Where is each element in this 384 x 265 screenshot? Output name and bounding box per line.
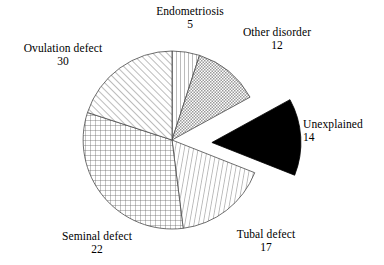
slice-label-seminal-defect-name: Seminal defect [42,230,152,243]
slice-label-unexplained: Unexplained 14 [303,118,384,144]
slice-label-other-disorder: Other disorder 12 [225,26,329,52]
slice-label-unexplained-value: 14 [303,131,384,144]
slice-label-other-disorder-name: Other disorder [225,26,329,39]
slice-label-ovulation-defect: Ovulation defect 30 [6,42,120,68]
pie-chart: Endometriosis 5 Other disorder 12 Unexpl… [0,0,384,265]
slice-label-seminal-defect-value: 22 [42,243,152,256]
slice-label-unexplained-name: Unexplained [303,118,384,131]
slice-label-ovulation-defect-value: 30 [6,55,120,68]
slice-label-tubal-defect-value: 17 [218,241,314,254]
slice-label-other-disorder-value: 12 [225,39,329,52]
slice-label-tubal-defect: Tubal defect 17 [218,228,314,254]
slice-label-endometriosis-name: Endometriosis [138,5,242,18]
slice-label-seminal-defect: Seminal defect 22 [42,230,152,256]
slice-label-ovulation-defect-name: Ovulation defect [6,42,120,55]
slice-label-tubal-defect-name: Tubal defect [218,228,314,241]
